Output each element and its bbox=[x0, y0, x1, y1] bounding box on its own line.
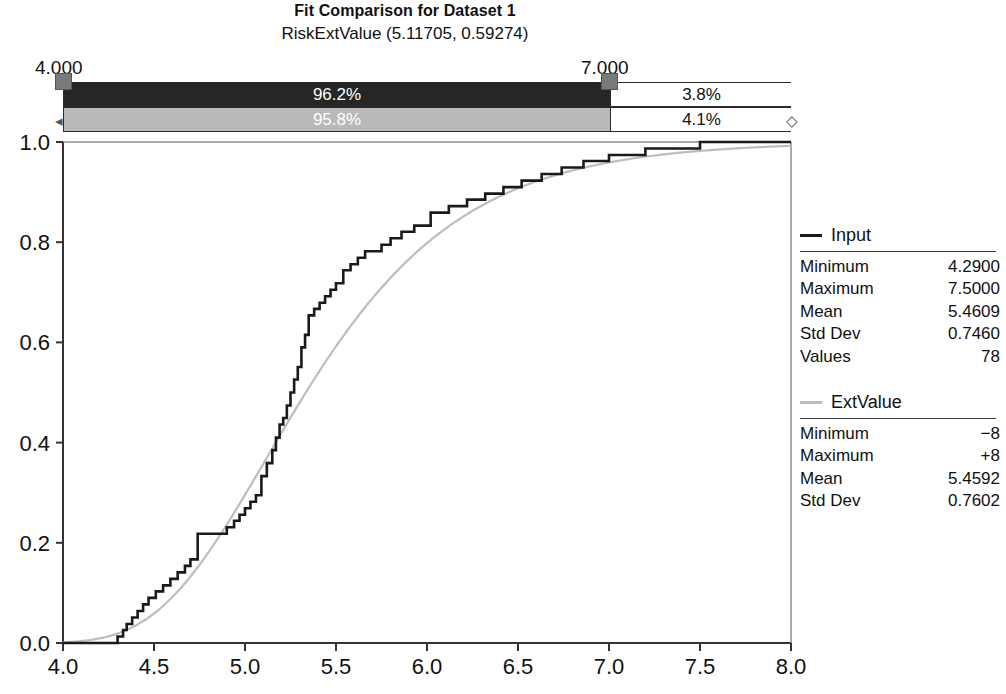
statistics-panel: Input Minimum 4.2900 Maximum 7.5000 Mean… bbox=[800, 222, 1000, 513]
input-step-curve bbox=[63, 142, 791, 643]
stat-row: Maximum 7.5000 bbox=[800, 278, 1000, 300]
x-tick-label: 7.5 bbox=[685, 654, 716, 679]
y-tick-label: 0.0 bbox=[19, 631, 50, 656]
y-tick-label: 0.8 bbox=[19, 230, 50, 255]
stat-value: 5.4592 bbox=[948, 468, 1000, 490]
x-tick-label: 6.0 bbox=[412, 654, 443, 679]
x-tick-label: 4.5 bbox=[139, 654, 170, 679]
stat-row: Mean 5.4609 bbox=[800, 301, 1000, 323]
stat-value: −8 bbox=[981, 423, 1000, 445]
x-tick-label: 7.0 bbox=[594, 654, 625, 679]
stat-row: Minimum 4.2900 bbox=[800, 256, 1000, 278]
y-tick-label: 0.6 bbox=[19, 330, 50, 355]
stat-value: 7.5000 bbox=[948, 278, 1000, 300]
x-tick-label: 5.5 bbox=[321, 654, 352, 679]
stat-value: 78 bbox=[981, 346, 1000, 368]
stat-row: Std Dev 0.7602 bbox=[800, 490, 1000, 512]
x-tick-label: 4.0 bbox=[48, 654, 79, 679]
fitted-extvalue-curve bbox=[63, 146, 791, 642]
fit-comparison-window: Fit Comparison for Dataset 1 RiskExtValu… bbox=[0, 0, 1006, 694]
y-tick-label: 0.2 bbox=[19, 531, 50, 556]
stat-row: Mean 5.4592 bbox=[800, 468, 1000, 490]
legend-item-extvalue[interactable]: ExtValue bbox=[800, 389, 1000, 415]
y-tick-label: 0.4 bbox=[19, 431, 50, 456]
stat-value: 5.4609 bbox=[948, 301, 1000, 323]
stat-row: Minimum −8 bbox=[800, 423, 1000, 445]
x-tick-label: 8.0 bbox=[776, 654, 807, 679]
stat-key: Std Dev bbox=[800, 323, 860, 345]
input-line-swatch-icon bbox=[800, 234, 822, 237]
stat-value: 0.7460 bbox=[948, 323, 1000, 345]
legend-label-extvalue: ExtValue bbox=[831, 392, 902, 413]
stat-value: 0.7602 bbox=[948, 490, 1000, 512]
stat-row: Maximum +8 bbox=[800, 445, 1000, 467]
stat-key: Mean bbox=[800, 468, 843, 490]
panel-spacer bbox=[800, 368, 1000, 389]
x-tick-label: 5.0 bbox=[230, 654, 261, 679]
stat-row: Std Dev 0.7460 bbox=[800, 323, 1000, 345]
legend-item-input[interactable]: Input bbox=[800, 222, 1000, 248]
stat-key: Std Dev bbox=[800, 490, 860, 512]
extvalue-line-swatch-icon bbox=[800, 401, 822, 404]
stat-key: Values bbox=[800, 346, 851, 368]
stat-row: Values 78 bbox=[800, 346, 1000, 368]
stat-value: 4.2900 bbox=[948, 256, 1000, 278]
legend-label-input: Input bbox=[831, 225, 871, 246]
stat-value: +8 bbox=[981, 445, 1000, 467]
input-divider bbox=[800, 251, 996, 252]
x-tick-label: 6.5 bbox=[503, 654, 534, 679]
y-tick-label: 1.0 bbox=[19, 130, 50, 155]
stat-key: Maximum bbox=[800, 445, 874, 467]
stat-key: Maximum bbox=[800, 278, 874, 300]
stat-key: Minimum bbox=[800, 256, 869, 278]
stat-key: Minimum bbox=[800, 423, 869, 445]
stat-key: Mean bbox=[800, 301, 843, 323]
extvalue-divider bbox=[800, 418, 996, 419]
